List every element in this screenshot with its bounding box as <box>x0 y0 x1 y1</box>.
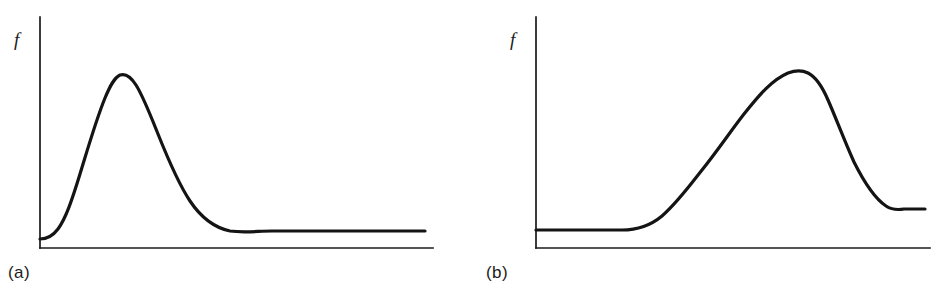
plot-a <box>0 0 472 298</box>
distribution-curve-a <box>40 74 425 239</box>
figure-root: f (a) f (b) <box>0 0 944 298</box>
panel-a: f (a) <box>0 0 472 298</box>
panel-caption-a: (a) <box>8 264 30 281</box>
y-axis-label-a: f <box>14 30 19 49</box>
panel-b: f (b) <box>472 0 944 298</box>
plot-b <box>472 0 944 298</box>
distribution-curve-b <box>536 71 925 230</box>
panel-caption-b: (b) <box>486 264 508 281</box>
y-axis-label-b: f <box>510 30 515 49</box>
